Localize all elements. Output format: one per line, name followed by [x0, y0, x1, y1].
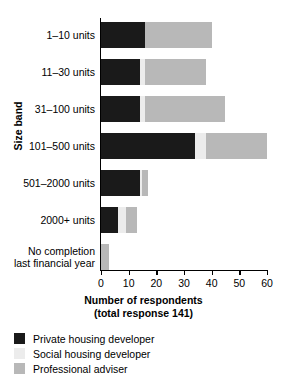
x-axis-tick-label: 30: [172, 277, 196, 289]
legend-item: Private housing developer: [14, 331, 154, 346]
bar-segment: [101, 207, 118, 233]
legend-swatch-icon: [14, 348, 25, 359]
bar-segment: [101, 244, 109, 270]
bar-segment: [101, 96, 140, 122]
x-axis-tick-label: 50: [227, 277, 251, 289]
x-axis-tick-label: 0: [89, 277, 113, 289]
legend-item: Social housing developer: [14, 346, 154, 361]
category-label: 31–100 units: [0, 103, 95, 115]
x-axis-tick: [156, 270, 157, 275]
x-axis-tick: [212, 270, 213, 275]
category-label-line: 11–30 units: [0, 66, 95, 78]
bar-segment: [101, 22, 145, 48]
legend-label: Professional adviser: [33, 363, 128, 375]
category-label-line: 2000+ units: [0, 214, 95, 226]
bar-row: [101, 59, 206, 85]
legend-label: Social housing developer: [33, 348, 150, 360]
category-label-line: 31–100 units: [0, 103, 95, 115]
bar-segment: [142, 170, 148, 196]
category-label: 1–10 units: [0, 29, 95, 41]
bar-series-container: [101, 18, 267, 270]
bar-segment: [206, 133, 267, 159]
x-axis-tick: [267, 270, 268, 275]
x-axis-tick: [101, 270, 102, 275]
category-label: 501–2000 units: [0, 177, 95, 189]
x-axis-tick-label: 60: [255, 277, 279, 289]
bar-segment: [195, 133, 206, 159]
bar-segment: [126, 207, 137, 233]
category-label-line: 501–2000 units: [0, 177, 95, 189]
category-label: 101–500 units: [0, 140, 95, 152]
bar-row: [101, 207, 137, 233]
x-axis-tick-label: 40: [200, 277, 224, 289]
x-axis-tick: [184, 270, 185, 275]
category-label: No completionlast financial year: [0, 245, 95, 270]
legend-swatch-icon: [14, 333, 25, 344]
bar-segment: [101, 59, 140, 85]
bar-row: [101, 133, 267, 159]
bar-row: [101, 170, 148, 196]
x-axis-title-line1: Number of respondents: [0, 294, 287, 307]
category-label-line: 1–10 units: [0, 29, 95, 41]
bar-row: [101, 22, 212, 48]
category-label: 11–30 units: [0, 66, 95, 78]
category-label-line: 101–500 units: [0, 140, 95, 152]
x-axis-tick: [129, 270, 130, 275]
legend-label: Private housing developer: [33, 333, 154, 345]
x-axis-title: Number of respondents (total response 14…: [0, 294, 287, 320]
legend-item: Professional adviser: [14, 361, 154, 376]
chart-figure: Size band 1–10 units11–30 units31–100 un…: [0, 0, 287, 382]
x-axis-tick-label: 10: [117, 277, 141, 289]
bar-segment: [101, 133, 195, 159]
bar-segment: [145, 22, 211, 48]
y-axis-title: Size band: [12, 86, 24, 166]
x-axis-tick: [239, 270, 240, 275]
plot-area: [101, 18, 267, 270]
bar-segment: [145, 59, 206, 85]
legend-swatch-icon: [14, 363, 25, 374]
category-label-line: No completion: [0, 245, 95, 258]
category-label: 2000+ units: [0, 214, 95, 226]
bar-row: [101, 96, 225, 122]
bar-segment: [101, 170, 140, 196]
chart-legend: Private housing developerSocial housing …: [14, 331, 154, 376]
bar-segment: [118, 207, 126, 233]
bar-segment: [145, 96, 225, 122]
x-axis-tick-label: 20: [144, 277, 168, 289]
x-axis-title-line2: (total response 141): [0, 307, 287, 320]
bar-row: [101, 244, 109, 270]
category-label-line: last financial year: [0, 257, 95, 270]
